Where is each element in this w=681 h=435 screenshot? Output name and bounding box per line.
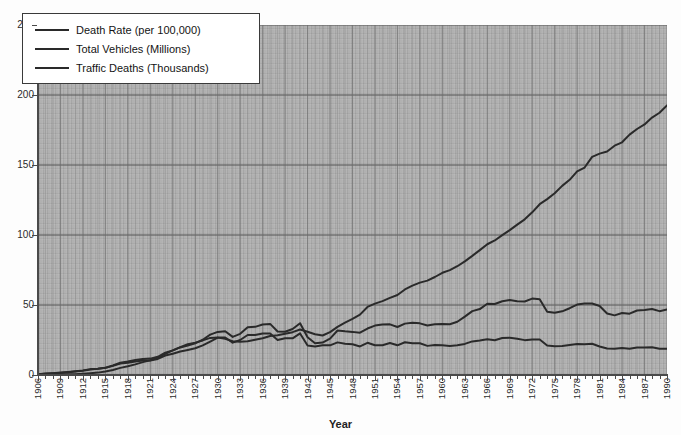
x-tick-mark [248,376,249,379]
x-tick-mark [255,376,256,379]
x-tick-mark [487,376,488,381]
x-tick-mark [615,376,616,379]
x-tick-label: 1909 [55,378,65,399]
x-tick-mark [457,376,458,379]
legend-item[interactable]: Total Vehicles (Millions) [27,39,255,58]
legend-item[interactable]: Death Rate (per 100,000) [27,20,255,39]
x-tick-label: 1978 [572,378,582,399]
x-tick-mark [285,376,286,381]
x-tick-label: 1906 [33,378,43,399]
x-tick-mark [555,376,556,381]
x-tick-label: 1942 [303,378,313,399]
x-tick-mark [562,376,563,379]
x-tick-mark [173,376,174,381]
x-tick-label: 1948 [348,378,358,399]
x-tick-mark [135,376,136,379]
x-tick-mark [165,376,166,379]
x-tick-mark [195,376,196,381]
x-tick-mark [105,376,106,381]
x-tick-mark [188,376,189,379]
legend-line-swatch-death-rate [35,29,69,31]
x-tick-label: 1915 [100,378,110,399]
x-tick-mark [390,376,391,379]
y-tick-label: 0 [6,370,34,380]
x-tick-label: 1939 [280,378,290,399]
x-tick-mark [427,376,428,379]
x-tick-mark [38,376,39,381]
x-tick-mark [547,376,548,379]
x-tick-mark [225,376,226,379]
x-tick-label: 1969 [505,378,515,399]
x-tick-mark [60,376,61,381]
x-tick-label: 1966 [482,378,492,399]
x-tick-mark [150,376,151,381]
x-tick-mark [367,376,368,379]
x-tick-mark [330,376,331,381]
x-tick-mark [323,376,324,379]
x-tick-mark [113,376,114,379]
x-tick-label: 1918 [123,378,133,399]
x-tick-mark [622,376,623,381]
x-tick-mark [83,376,84,381]
x-tick-mark [630,376,631,379]
x-tick-label: 1975 [550,378,560,399]
chart-legend: Death Rate (per 100,000) Total Vehicles … [22,13,260,84]
x-tick-label: 1930 [213,378,223,399]
x-tick-label: 1936 [258,378,268,399]
legend-label-traffic-deaths: Traffic Deaths (Thousands) [76,62,209,74]
y-tick-label: 50 [6,300,34,310]
y-tick-mark [32,235,37,236]
x-tick-label: 1921 [145,378,155,399]
x-tick-mark [585,376,586,379]
x-tick-mark [607,376,608,379]
x-tick-label: 1984 [617,378,627,399]
x-tick-label: 1912 [78,378,88,399]
x-tick-mark [98,376,99,379]
y-tick-mark [32,95,37,96]
x-tick-mark [450,376,451,379]
x-tick-mark [495,376,496,379]
x-tick-label: 1933 [235,378,245,399]
y-tick-label: 200 [6,90,34,100]
x-tick-mark [53,376,54,379]
x-tick-mark [442,376,443,381]
x-tick-mark [293,376,294,379]
x-tick-mark [465,376,466,381]
x-tick-mark [472,376,473,379]
chart-figure: 250200150100500 190619091912191519181921… [0,0,681,435]
x-tick-mark [412,376,413,379]
x-tick-mark [338,376,339,379]
x-tick-mark [203,376,204,379]
x-tick-mark [120,376,121,379]
x-tick-mark [600,376,601,381]
legend-item[interactable]: Traffic Deaths (Thousands) [27,58,255,77]
x-tick-mark [592,376,593,379]
x-tick-mark [68,376,69,379]
x-axis-title: Year [0,418,681,430]
x-tick-mark [420,376,421,381]
x-tick-mark [345,376,346,379]
x-tick-mark [218,376,219,381]
x-tick-mark [45,376,46,379]
y-tick-mark [32,25,37,26]
x-tick-label: 1924 [168,378,178,399]
x-tick-mark [240,376,241,381]
x-tick-label: 1951 [370,378,380,399]
x-tick-mark [233,376,234,379]
x-tick-mark [502,376,503,379]
x-tick-label: 1972 [527,378,537,399]
x-tick-mark [75,376,76,379]
x-tick-mark [315,376,316,379]
x-tick-mark [90,376,91,379]
x-tick-label: 1987 [640,378,650,399]
x-tick-label: 1957 [415,378,425,399]
x-tick-label: 1960 [437,378,447,399]
legend-label-death-rate: Death Rate (per 100,000) [76,24,201,36]
x-axis-tick-labels: 1906190919121915191819211924192719301933… [38,378,667,422]
x-tick-mark [540,376,541,379]
x-tick-mark [397,376,398,381]
x-tick-mark [360,376,361,379]
x-tick-mark [375,376,376,381]
y-tick-mark [32,305,37,306]
x-tick-mark [180,376,181,379]
